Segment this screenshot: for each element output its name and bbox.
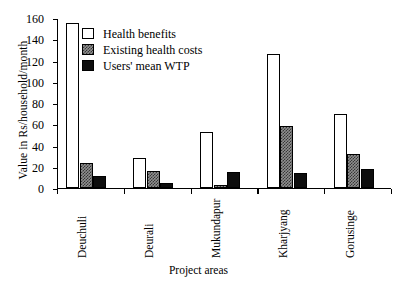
x-axis-category-label-kharjyang: Kharjyang xyxy=(277,209,289,258)
bar-gorusinge-series-1 xyxy=(347,154,360,188)
bar-mukundapur-series-0 xyxy=(200,132,213,188)
bar-gorusinge-series-2 xyxy=(361,169,374,188)
bar-deurali-series-1 xyxy=(147,171,160,188)
y-axis-tick-group: 020406080100120140160 xyxy=(0,0,44,290)
legend-item-label: Health benefits xyxy=(103,28,176,40)
bar-group xyxy=(267,19,307,188)
y-axis-tick-label: 40 xyxy=(2,141,44,153)
bar-deurali-series-0 xyxy=(133,158,146,188)
bar-chart-figure: Value in Rs/household/month 020406080100… xyxy=(0,0,397,290)
y-axis-tick-label: 120 xyxy=(2,56,44,68)
bar-kharjyang-series-2 xyxy=(294,173,307,188)
bar-kharjyang-series-0 xyxy=(267,54,280,188)
x-axis-category-label-mukundapur: Mukundapur xyxy=(210,199,222,258)
bar-group xyxy=(200,19,240,188)
legend-item: Existing health costs xyxy=(82,42,202,57)
x-axis-separator-tick xyxy=(124,189,125,194)
x-axis-title: Project areas xyxy=(0,264,397,276)
y-axis-tick-label: 100 xyxy=(2,77,44,89)
y-axis-tick-label: 140 xyxy=(2,34,44,46)
legend-item-label: Existing health costs xyxy=(103,44,202,56)
x-axis-separator-tick xyxy=(324,189,325,194)
bar-mukundapur-series-1 xyxy=(214,185,227,188)
bar-deurali-series-2 xyxy=(160,183,173,188)
bar-kharjyang-series-1 xyxy=(280,126,293,188)
y-axis-tick-label: 0 xyxy=(2,183,44,195)
x-axis-category-label-gorusinge: Gorusinge xyxy=(344,210,356,258)
gray-hatched-square-icon xyxy=(82,44,94,55)
white-square-icon xyxy=(82,28,94,39)
y-axis-tick-label: 160 xyxy=(2,13,44,25)
legend-item: Health benefits xyxy=(82,26,202,41)
legend-item-label: Users' mean WTP xyxy=(103,60,190,72)
chart-legend: Health benefitsExisting health costsUser… xyxy=(82,26,202,74)
x-axis-separator-tick xyxy=(257,189,258,194)
y-axis-tick-label: 60 xyxy=(2,119,44,131)
x-axis-separator-tick xyxy=(191,189,192,194)
bar-gorusinge-series-0 xyxy=(334,114,347,188)
black-square-icon xyxy=(82,60,94,71)
bar-mukundapur-series-2 xyxy=(227,172,240,188)
bar-deuchuli-series-1 xyxy=(80,163,93,189)
x-axis-separator-tick xyxy=(57,189,58,194)
x-axis-category-label-deurali: Deurali xyxy=(143,224,155,258)
y-axis-tick-label: 20 xyxy=(2,162,44,174)
x-axis-separator-tick xyxy=(391,189,392,194)
cropped-title-remnant xyxy=(0,0,397,4)
legend-item: Users' mean WTP xyxy=(82,58,202,73)
y-axis-tick-label: 80 xyxy=(2,98,44,110)
bar-group xyxy=(334,19,374,188)
bar-deuchuli-series-0 xyxy=(66,23,79,188)
bar-deuchuli-series-2 xyxy=(93,176,106,188)
x-axis-category-label-deuchuli: Deuchuli xyxy=(76,216,88,258)
